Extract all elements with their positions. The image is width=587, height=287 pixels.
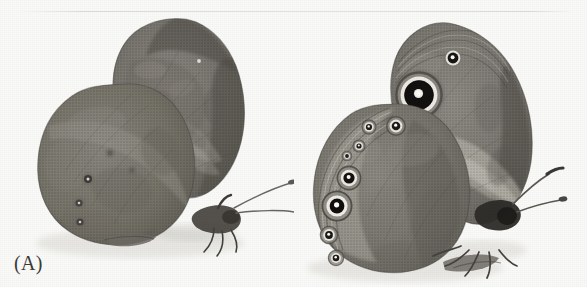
panel-a: (A) Butterfly with strongly reduced eyes…	[0, 0, 294, 287]
eyespot-b-forewing-apical	[444, 49, 462, 67]
panel-b: (B) Butterfly with fully developed eyesp…	[293, 0, 587, 287]
panel-a-label: (A)	[14, 252, 43, 275]
figure-plate: (A) Butterfly with strongly reduced eyes…	[0, 0, 587, 287]
eyespot-a-apex-speck	[197, 59, 201, 63]
